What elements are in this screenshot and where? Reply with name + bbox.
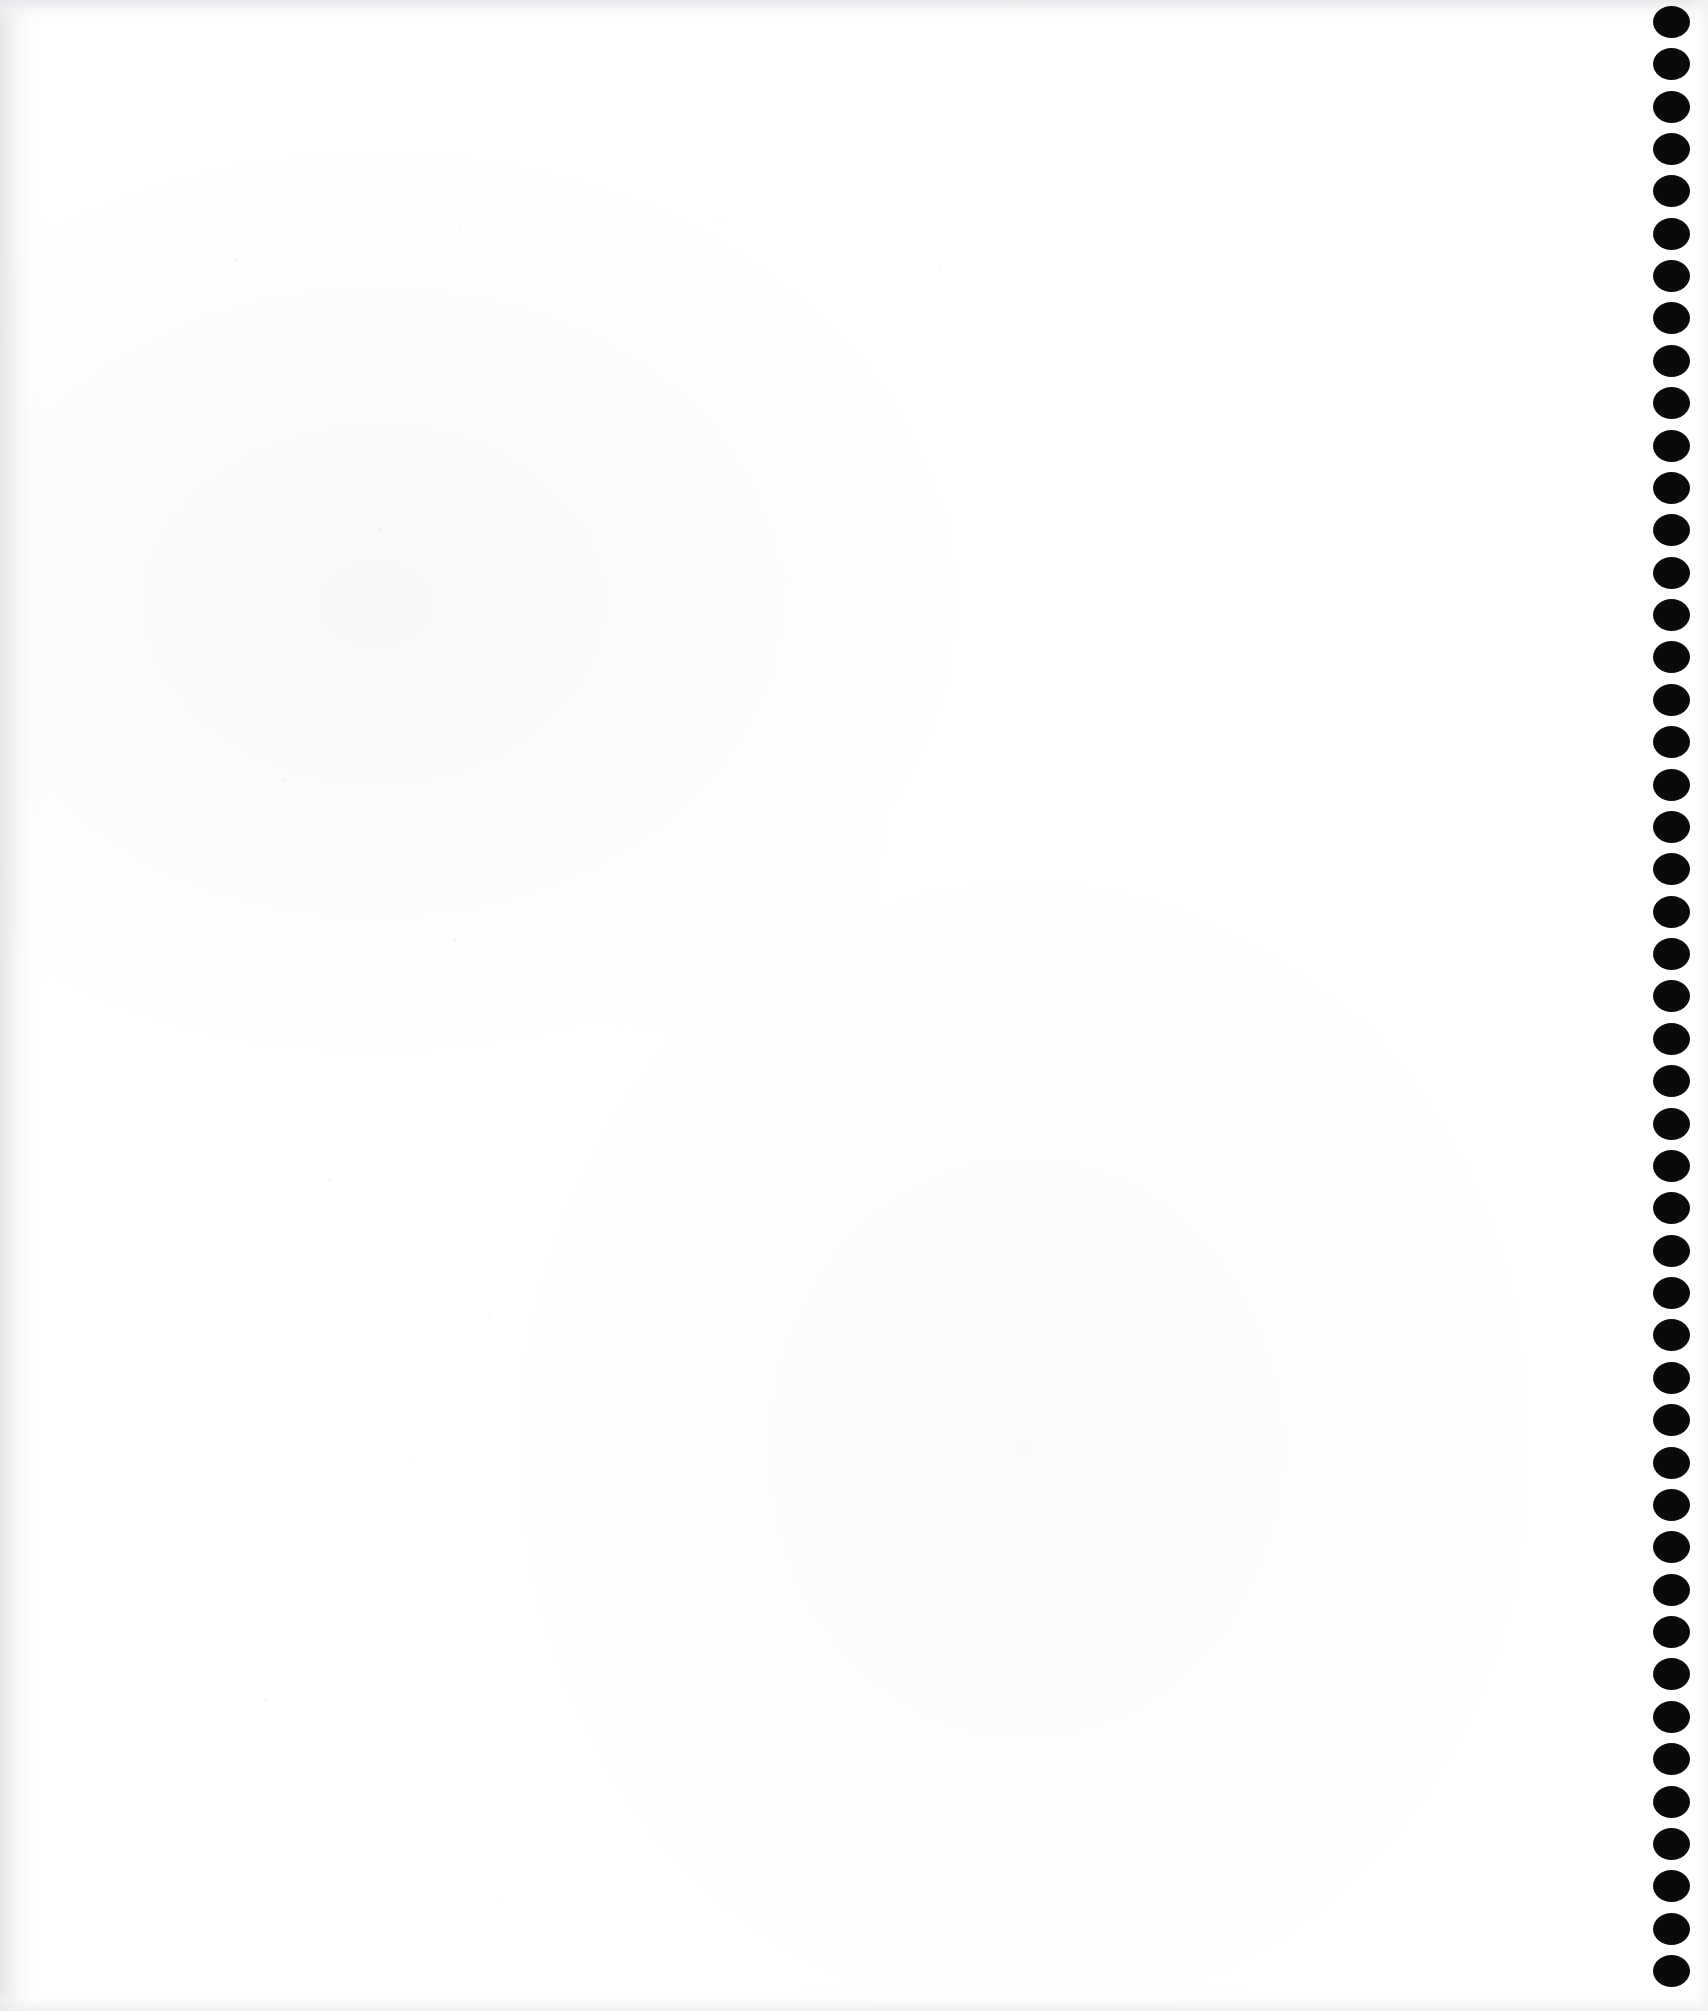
scanned-page — [0, 0, 1708, 2011]
page-content-area — [70, 50, 1600, 1960]
